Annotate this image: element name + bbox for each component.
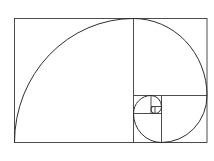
spiral-curve [15,19,208,143]
golden-rectangles [15,19,208,143]
golden-spiral-diagram [0,0,214,161]
outer-rectangle [15,19,208,143]
